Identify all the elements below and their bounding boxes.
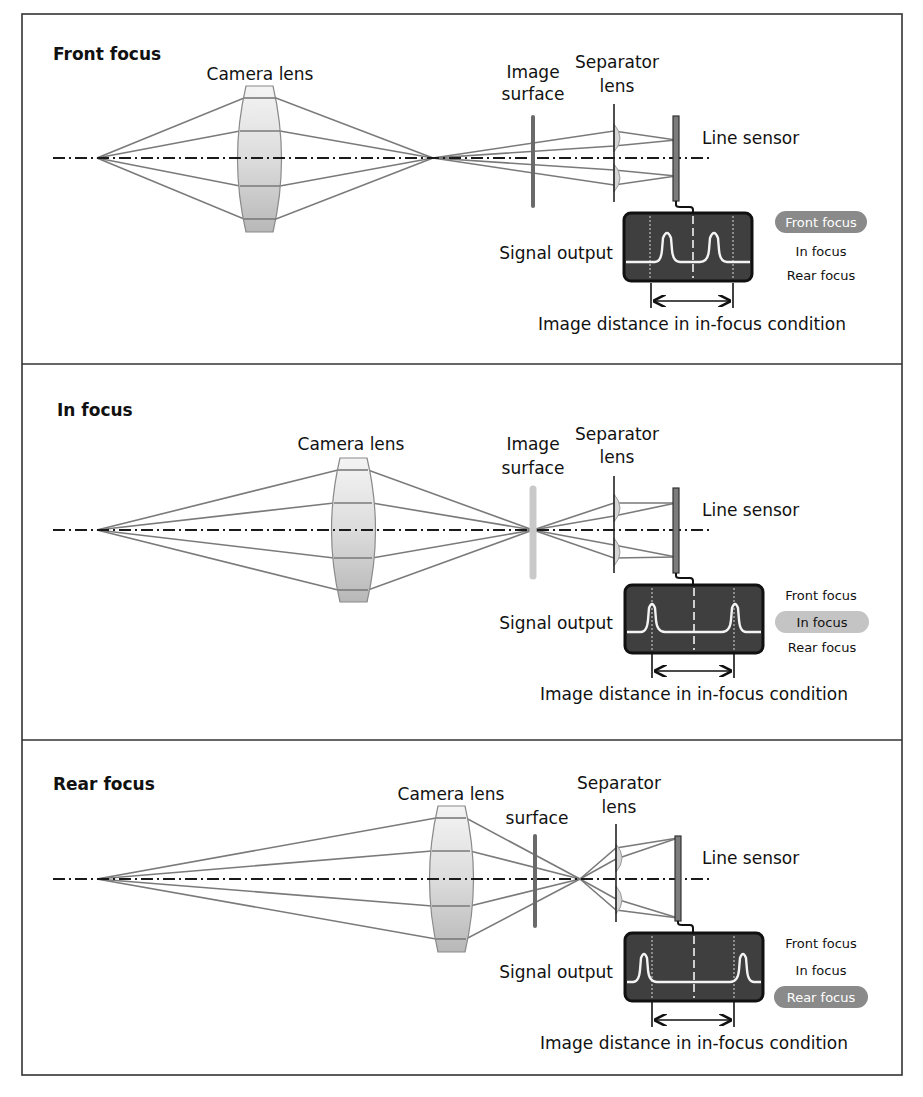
- camera-lens-label: Camera lens: [398, 784, 505, 804]
- image-surface-label-2: surface: [506, 808, 569, 828]
- line-sensor-label: Line sensor: [702, 500, 799, 520]
- separator-lens-label: Separator: [575, 52, 659, 72]
- separator-lens-label: Separator: [577, 773, 661, 793]
- image-surface-label-2: surface: [502, 84, 565, 104]
- image-surface-label: Image: [506, 62, 559, 82]
- image-surface-label: Image: [506, 434, 559, 454]
- phase-detection-af-diagram: Front focus Camera lens Image surface Se…: [0, 0, 923, 1097]
- signal-output-label: Signal output: [499, 613, 613, 633]
- line-sensor-label: Line sensor: [702, 848, 799, 868]
- signal-output-display: [625, 933, 763, 1001]
- signal-output-label: Signal output: [499, 243, 613, 263]
- separator-lens-label-2: lens: [600, 76, 635, 96]
- signal-output-label: Signal output: [499, 962, 613, 982]
- legend-front-focus: Front focus: [785, 588, 857, 603]
- separator-lens: [614, 476, 620, 573]
- legend-in-focus: In focus: [796, 963, 847, 978]
- panel-title: Rear focus: [53, 774, 155, 794]
- line-sensor: [675, 836, 681, 921]
- legend-in-focus: In focus: [797, 615, 848, 630]
- panel-title: In focus: [57, 400, 133, 420]
- image-surface-label-2: surface: [502, 458, 565, 478]
- panel-rear-focus: Rear focus Camera lens Image surface Sep…: [53, 773, 868, 1053]
- diagram-canvas: Front focus Camera lens Image surface Se…: [0, 0, 923, 1097]
- separator-lens-label-2: lens: [600, 447, 635, 467]
- signal-output-display: [625, 585, 763, 653]
- panel-in-focus: In focus Camera lens Image surface Separ…: [53, 400, 869, 704]
- legend-front-focus: Front focus: [785, 215, 857, 230]
- legend-rear-focus: Rear focus: [787, 990, 856, 1005]
- image-distance-label: Image distance in in-focus condition: [538, 314, 846, 334]
- line-sensor: [673, 116, 679, 201]
- legend-rear-focus: Rear focus: [788, 640, 857, 655]
- image-distance-label: Image distance in in-focus condition: [540, 1033, 848, 1053]
- separator-lens: [614, 104, 620, 202]
- image-distance-arrow: [652, 654, 734, 678]
- camera-lens-label: Camera lens: [298, 434, 405, 454]
- camera-lens-label: Camera lens: [207, 64, 314, 84]
- signal-output-display: [624, 213, 752, 281]
- image-distance-label: Image distance in in-focus condition: [540, 684, 848, 704]
- legend-front-focus: Front focus: [785, 936, 857, 951]
- separator-lens-label-2: lens: [602, 797, 637, 817]
- legend-rear-focus: Rear focus: [787, 268, 856, 283]
- legend-in-focus: In focus: [796, 244, 847, 259]
- image-distance-arrow: [651, 283, 733, 308]
- line-sensor: [673, 488, 679, 573]
- line-sensor-label: Line sensor: [702, 128, 799, 148]
- panel-title: Front focus: [53, 44, 161, 64]
- separator-lens-label: Separator: [575, 424, 659, 444]
- separator-lens: [616, 824, 622, 922]
- panel-front-focus: Front focus Camera lens Image surface Se…: [53, 44, 867, 334]
- image-distance-arrow: [652, 1002, 734, 1027]
